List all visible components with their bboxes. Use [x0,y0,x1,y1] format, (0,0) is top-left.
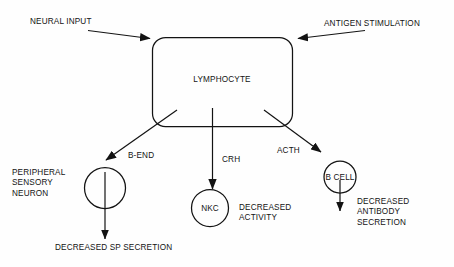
crh-label: CRH [222,155,240,165]
nkc-label: NKC [201,204,219,214]
neural-input-arrow [88,31,150,39]
acth-label: ACTH [277,146,300,156]
antigen-stimulation-label: ANTIGEN STIMULATION [324,19,420,29]
b-cell-label: B CELL [325,173,354,183]
decreased-antibody-secretion-label: DECREASED ANTIBODY SECRETION [357,197,409,228]
decreased-activity-label: DECREASED ACTIVITY [239,203,291,224]
decreased-sp-secretion-label: DECREASED SP SECRETION [55,243,172,253]
neural-input-label: NEURAL INPUT [30,17,92,27]
b-end-label: B-END [128,151,154,161]
antigen-stimulation-arrow [298,31,365,39]
immune-neuroendocrine-diagram: NEURAL INPUT ANTIGEN STIMULATION LYMPHOC… [0,0,454,267]
lymphocyte-label: LYMPHOCYTE [193,75,250,85]
peripheral-sensory-neuron-label: PERIPHERAL SENSORY NEURON [12,168,65,199]
